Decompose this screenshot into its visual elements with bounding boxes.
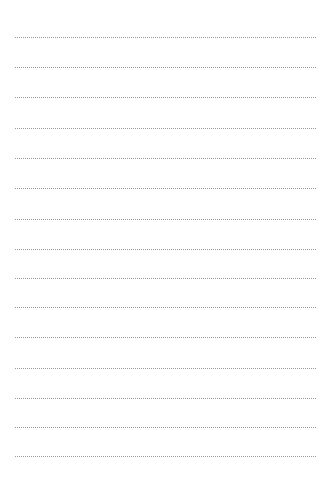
- lined-paper-page: [0, 0, 332, 484]
- ruled-line: [15, 188, 316, 189]
- ruled-line: [15, 128, 316, 129]
- ruled-line: [15, 337, 316, 338]
- ruled-line: [15, 37, 316, 38]
- ruled-line: [15, 158, 316, 159]
- ruled-line: [15, 278, 316, 279]
- ruled-line: [15, 97, 316, 98]
- ruled-line: [15, 427, 316, 428]
- ruled-line: [15, 398, 316, 399]
- ruled-line: [15, 67, 316, 68]
- ruled-line: [15, 307, 316, 308]
- ruled-line: [15, 249, 316, 250]
- ruled-line: [15, 456, 316, 457]
- ruled-line: [15, 219, 316, 220]
- ruled-line: [15, 368, 316, 369]
